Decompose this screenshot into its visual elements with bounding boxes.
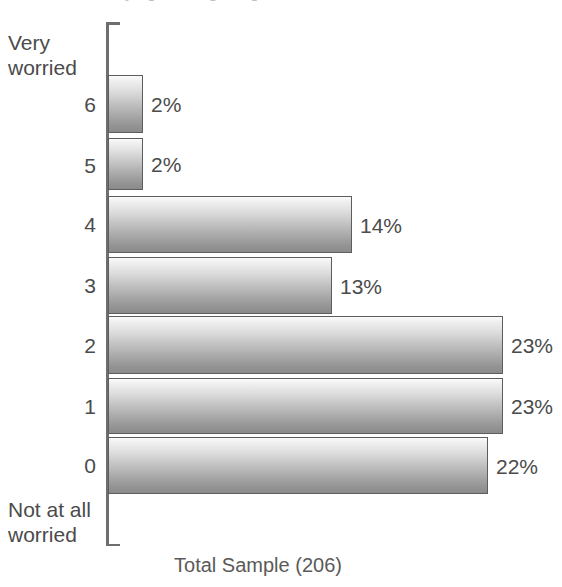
bar-value-5: 2% [151, 154, 181, 175]
axis-anchor-top-line1: Very [8, 30, 100, 55]
category-label-0: 0 [0, 455, 96, 476]
bar-value-1: 23% [511, 396, 553, 417]
bar-5 [108, 138, 143, 190]
axis-anchor-bottom-line2: worried [8, 522, 100, 547]
bar-2 [108, 316, 503, 374]
bar-value-4: 14% [360, 215, 402, 236]
bar-value-0: 22% [496, 456, 538, 477]
axis-anchor-bottom: Not at all worried [8, 497, 100, 547]
axis-anchor-bottom-line1: Not at all [8, 497, 100, 522]
category-label-3: 3 [0, 275, 96, 296]
bar-0 [108, 437, 488, 494]
category-label-4: 4 [0, 214, 96, 235]
chart-caption: Total Sample (206) [108, 554, 408, 577]
bar-3 [108, 257, 332, 314]
y-axis-cap-top [106, 22, 120, 25]
y-axis-cap-bottom [106, 544, 120, 547]
category-label-5: 5 [0, 155, 96, 176]
axis-anchor-top: Very worried [8, 30, 100, 80]
category-label-6: 6 [0, 94, 96, 115]
bar-4 [108, 196, 352, 253]
bar-6 [108, 75, 143, 133]
bar-chart: Very worried Not at all worried 6 5 4 3 … [0, 0, 562, 587]
category-label-1: 1 [0, 396, 96, 417]
bar-value-6: 2% [151, 94, 181, 115]
bar-value-3: 13% [340, 276, 382, 297]
category-label-2: 2 [0, 335, 96, 356]
bar-1 [108, 378, 503, 434]
axis-anchor-top-line2: worried [8, 55, 100, 80]
bar-value-2: 23% [511, 335, 553, 356]
